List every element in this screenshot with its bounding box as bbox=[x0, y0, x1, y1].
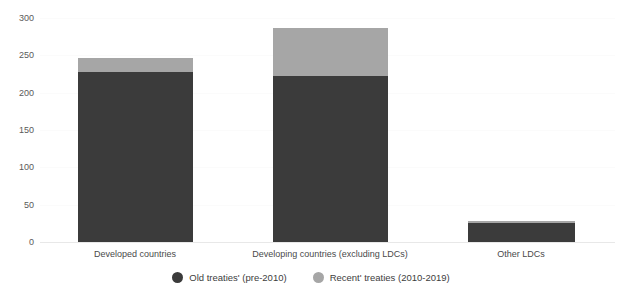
y-tick-label: 150 bbox=[4, 126, 34, 135]
legend-item-recent-treaties[interactable]: Recent' treaties (2010-2019) bbox=[313, 272, 450, 283]
legend-swatch-icon bbox=[313, 272, 324, 283]
bar-developing-countries[interactable] bbox=[273, 18, 388, 242]
y-tick-label: 0 bbox=[4, 238, 34, 247]
legend-swatch-icon bbox=[172, 272, 183, 283]
bar-segment-old-treaties[interactable] bbox=[273, 76, 388, 242]
bar-segment-old-treaties[interactable] bbox=[78, 72, 193, 242]
legend-item-label: Recent' treaties (2010-2019) bbox=[330, 272, 450, 283]
bar-developed-countries[interactable] bbox=[78, 18, 193, 242]
chart-legend: Old treaties' (pre-2010) Recent' treatie… bbox=[0, 272, 622, 283]
x-axis-label-developing-countries: Developing countries (excluding LDCs) bbox=[252, 250, 408, 260]
y-tick-label: 100 bbox=[4, 163, 34, 172]
y-tick-label: 50 bbox=[4, 200, 34, 209]
stacked-bar-chart: 300 250 200 150 100 50 0 Developed count… bbox=[0, 0, 622, 299]
legend-item-label: Old treaties' (pre-2010) bbox=[189, 272, 286, 283]
x-axis-label-developed-countries: Developed countries bbox=[94, 250, 176, 260]
y-tick-label: 250 bbox=[4, 51, 34, 60]
bar-other-ldcs[interactable] bbox=[468, 18, 575, 242]
y-tick-label: 200 bbox=[4, 88, 34, 97]
axis-baseline bbox=[40, 242, 615, 243]
bar-segment-old-treaties[interactable] bbox=[468, 223, 575, 242]
bar-segment-recent-treaties[interactable] bbox=[468, 221, 575, 223]
x-axis-label-other-ldcs: Other LDCs bbox=[497, 250, 545, 260]
bar-segment-recent-treaties[interactable] bbox=[273, 28, 388, 76]
y-tick-label: 300 bbox=[4, 14, 34, 23]
plot-area bbox=[40, 18, 615, 242]
legend-item-old-treaties[interactable]: Old treaties' (pre-2010) bbox=[172, 272, 286, 283]
bar-segment-recent-treaties[interactable] bbox=[78, 58, 193, 72]
